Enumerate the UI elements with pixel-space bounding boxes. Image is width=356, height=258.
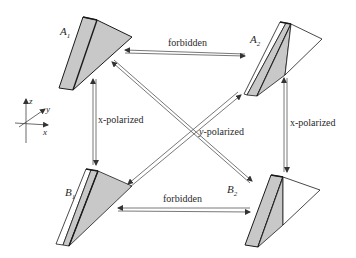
label-top-forbidden: forbidden — [168, 37, 207, 48]
prism-b2 — [245, 175, 320, 247]
prism-a1 — [59, 17, 132, 90]
diagram-canvas: A1 A2 B1 B2 forbidden forbidden — [0, 0, 356, 258]
axis-label-y: y — [45, 104, 50, 114]
axis-label-x: x — [42, 127, 47, 137]
label-bottom-forbidden: forbidden — [163, 193, 202, 204]
label-a2: A2 — [249, 33, 261, 48]
prism-b1 — [56, 169, 132, 246]
label-left-x-polarized: x-polarized — [98, 114, 144, 125]
arrow-diagonal-a2-b1 — [128, 92, 241, 187]
arrow-right-x-polarized — [284, 78, 287, 172]
label-b1: B1 — [65, 186, 75, 201]
arrow-top-forbidden — [125, 50, 245, 56]
axis-label-z: z — [28, 96, 33, 106]
label-b2: B2 — [227, 183, 238, 198]
label-right-x-polarized: x-polarized — [290, 117, 336, 128]
arrow-left-x-polarized — [93, 79, 96, 165]
arrow-bottom-forbidden — [118, 208, 250, 212]
label-a1: A1 — [59, 25, 70, 40]
label-y-polarized: y-polarized — [198, 126, 244, 137]
